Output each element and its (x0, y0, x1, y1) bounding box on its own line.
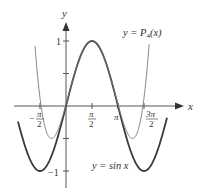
denominator: 2 (89, 119, 94, 129)
minus-sign: − (29, 113, 34, 123)
y-tick-label-minus-1: −1 (48, 167, 59, 178)
numerator: π (37, 109, 42, 119)
sin-curve-label: y = sin x (91, 160, 129, 171)
p4-curve-label: y = P4(x) (122, 27, 162, 40)
denominator: 2 (37, 119, 42, 129)
y-axis-label: y (61, 7, 67, 19)
y-axis-arrow-icon (63, 22, 70, 31)
x-tick-label-3pi-over-2: 3π 2 (145, 109, 158, 129)
x-axis-label: x (187, 100, 193, 112)
denominator: 2 (149, 119, 154, 129)
taylor-plot: y x 1 −1 − π 2 π 2 π 3π 2 y = P4(x) y = … (0, 0, 198, 193)
x-tick-label-pi-over-2: π 2 (88, 109, 96, 129)
y-tick-label-1: 1 (56, 36, 61, 47)
x-tick-label-pi: π (114, 112, 119, 122)
p4-label-arg: (x) (150, 27, 162, 39)
numerator: 3π (145, 109, 156, 119)
x-axis-arrow-icon (175, 103, 184, 110)
numerator: π (89, 109, 94, 119)
p4-label-prefix: y = (122, 27, 140, 38)
